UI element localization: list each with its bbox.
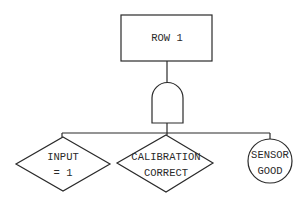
input-3-line-2: GOOD	[257, 165, 282, 177]
input-event-3: SENSOR GOOD	[248, 139, 292, 183]
input-3-line-1: SENSOR	[251, 149, 290, 161]
fault-tree-diagram: ROW 1 INPUT = 1 CALIBRATION CORRECT SENS…	[0, 0, 305, 201]
and-gate-icon	[152, 83, 183, 123]
input-1-line-1: INPUT	[47, 151, 79, 163]
diamond-shape	[16, 137, 110, 191]
diamond-shape	[117, 135, 213, 192]
input-1-line-2: = 1	[54, 167, 73, 179]
input-2-line-2: CORRECT	[144, 167, 188, 179]
input-event-1: INPUT = 1	[16, 137, 110, 191]
input-event-2: CALIBRATION CORRECT	[117, 135, 213, 192]
top-event-box: ROW 1	[121, 15, 212, 61]
top-event-label: ROW 1	[151, 32, 183, 44]
input-2-line-1: CALIBRATION	[131, 151, 200, 163]
